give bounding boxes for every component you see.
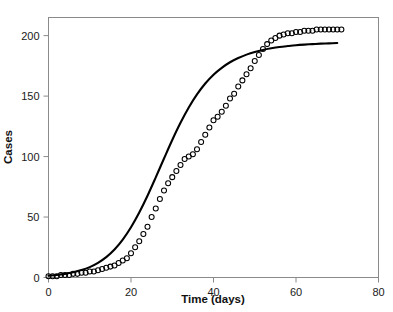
y-tick-label-0: 0 bbox=[33, 272, 39, 284]
x-tick-label-0: 0 bbox=[45, 286, 51, 298]
x-tick-label-20: 20 bbox=[125, 286, 137, 298]
chart-figure: 020406080 050100150200 Time (days) Cases bbox=[0, 0, 393, 312]
y-tick-label-50: 50 bbox=[27, 211, 39, 223]
x-tick-label-80: 80 bbox=[372, 286, 384, 298]
x-axis-title: Time (days) bbox=[181, 293, 245, 305]
y-axis-title: Cases bbox=[2, 130, 14, 164]
y-tick-label-200: 200 bbox=[21, 30, 39, 42]
x-tick-label-60: 60 bbox=[290, 286, 302, 298]
epidemic-curve-chart: 020406080 050100150200 Time (days) Cases bbox=[0, 0, 393, 312]
chart-background bbox=[0, 0, 393, 312]
y-tick-label-100: 100 bbox=[21, 151, 39, 163]
y-tick-label-150: 150 bbox=[21, 90, 39, 102]
